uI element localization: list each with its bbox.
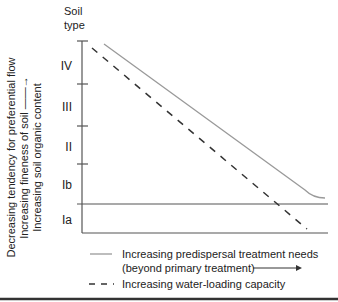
legend-solid-line2: (beyond primary treatment) bbox=[122, 261, 255, 275]
legend-solid-line1: Increasing predispersal treatment needs bbox=[122, 247, 318, 261]
legend-dashed: Increasing water-loading capacity bbox=[122, 277, 285, 291]
solid-series-line bbox=[104, 44, 325, 198]
arrow-right-icon bbox=[296, 265, 302, 271]
dashed-series-line bbox=[92, 48, 307, 229]
